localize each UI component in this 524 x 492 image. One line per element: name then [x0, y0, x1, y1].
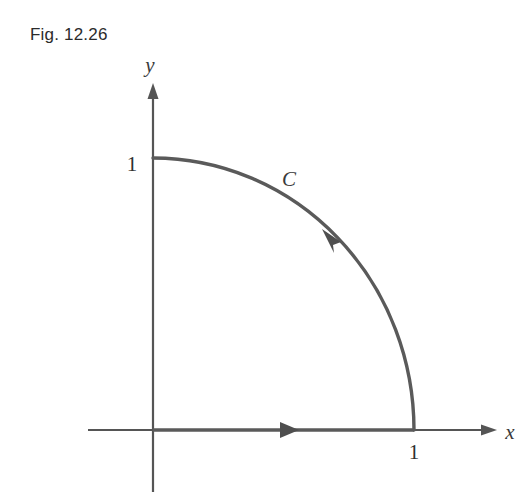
y-tick-label-1: 1: [127, 152, 138, 176]
y-axis-arrowhead-icon: [148, 83, 159, 99]
curve-c-arc: [153, 158, 414, 430]
y-axis-label: y: [143, 53, 155, 77]
x-axis-label: x: [504, 420, 515, 444]
figure-container: Fig. 12.26 1 1 y x C: [0, 0, 524, 492]
x-axis-arrowhead-icon: [481, 425, 497, 436]
segment-direction-arrow-icon: [280, 422, 299, 438]
plot-area: 1 1 y x C: [0, 0, 524, 492]
curve-label-c: C: [282, 167, 297, 191]
x-tick-label-1: 1: [409, 440, 420, 464]
